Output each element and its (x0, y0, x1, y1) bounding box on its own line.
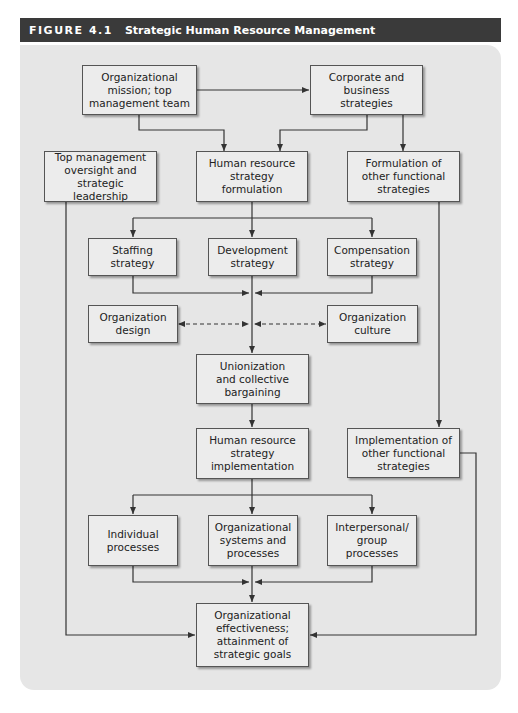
node-individual-processes: Individual processes (88, 515, 178, 566)
node-hr-strategy-formulation: Human resource strategy formulation (196, 151, 308, 202)
node-organizational-effectiveness: Organizational effectiveness; attainment… (196, 603, 309, 667)
figure-header: FIGURE 4.1 Strategic Human Resource Mana… (20, 18, 501, 42)
figure-title: Strategic Human Resource Management (125, 24, 375, 37)
node-unionization: Unionization and collective bargaining (196, 354, 309, 404)
node-compensation-strategy: Compensation strategy (327, 238, 417, 276)
figure-number: FIGURE 4.1 (29, 24, 113, 37)
node-organizational-systems: Organizational systems and processes (208, 515, 298, 566)
node-other-functional-formulation: Formulation of other functional strategi… (347, 151, 460, 202)
node-org-mission: Organizational mission; top management t… (82, 65, 197, 115)
node-organization-culture: Organization culture (327, 305, 418, 343)
node-other-functional-implementation: Implementation of other functional strat… (347, 428, 460, 478)
node-corporate-business-strategies: Corporate and business strategies (310, 65, 423, 115)
node-top-management-oversight: Top management oversight and strategic l… (44, 151, 157, 202)
node-development-strategy: Development strategy (208, 238, 297, 276)
node-interpersonal-group-processes: Interpersonal/ group processes (327, 515, 417, 566)
node-staffing-strategy: Staffing strategy (88, 238, 177, 276)
node-organization-design: Organization design (88, 305, 178, 343)
node-hr-strategy-implementation: Human resource strategy implementation (196, 428, 309, 479)
